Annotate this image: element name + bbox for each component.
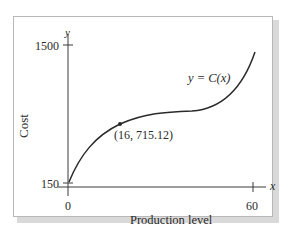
y-tick-label-150: 150 <box>41 178 59 190</box>
curve-label: y = C(x) <box>188 72 230 85</box>
x-tick-label-0: 0 <box>65 200 71 212</box>
point-label: (16, 715.12) <box>114 129 173 141</box>
point-marker <box>118 122 122 126</box>
x-axis-symbol: x <box>270 180 275 192</box>
y-axis-title: Cost <box>16 114 32 138</box>
y-axis-symbol: y <box>65 27 70 38</box>
y-tick-label-1500: 1500 <box>35 40 59 52</box>
x-axis-title: Production level <box>130 214 212 227</box>
x-tick-label-60: 60 <box>246 200 258 212</box>
